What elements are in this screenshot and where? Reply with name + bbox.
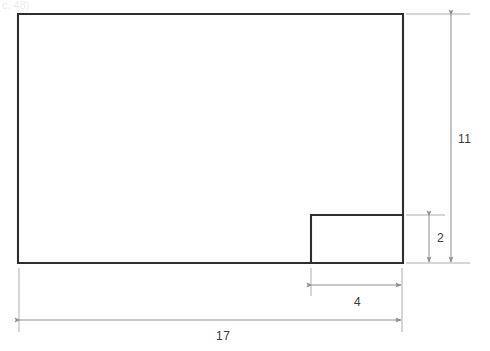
dimension-label-height-notch: 2 [437, 232, 444, 244]
figure-drawing [0, 0, 490, 351]
dimension-label-width-overall: 17 [216, 330, 230, 342]
dimension-label-width-notch: 4 [354, 296, 361, 308]
outer-rectangle-outline [18, 14, 403, 263]
figure-canvas: c. 48) [0, 0, 490, 351]
dimension-label-height-overall: 11 [458, 133, 471, 145]
